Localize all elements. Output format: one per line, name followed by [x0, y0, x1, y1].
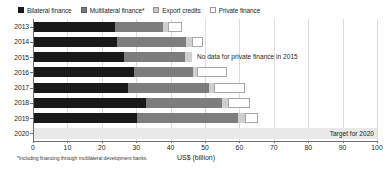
bar-segment-bilateral-2016 — [33, 67, 134, 77]
x-tick-label-100: 100 — [371, 144, 382, 151]
bar-row-2018 — [33, 95, 377, 110]
bar-row-2013 — [33, 19, 377, 34]
legend-item-multilateral-finance: Multilateral finance* — [81, 7, 145, 14]
legend-label: Private finance — [219, 7, 261, 14]
bar-segment-private-2017 — [214, 83, 245, 93]
square-filled-black-icon — [18, 7, 24, 13]
x-tick-label-70: 70 — [270, 144, 278, 151]
stacked-bar-2019 — [33, 113, 258, 123]
legend-label: Multilateral finance* — [90, 7, 145, 14]
x-tick-mark — [33, 141, 34, 143]
y-tick-label-2020: 2020 — [14, 126, 29, 141]
stacked-bar-2013 — [33, 22, 182, 32]
bar-segment-private-2018 — [228, 98, 250, 108]
bar-segment-export-credits-2019 — [238, 113, 245, 123]
x-tick-label-10: 10 — [64, 144, 72, 151]
stacked-bar-2017 — [33, 83, 245, 93]
y-tick-label-2018: 2018 — [14, 95, 29, 110]
bar-segment-bilateral-2019 — [33, 113, 137, 123]
stacked-bar-2015 — [33, 52, 192, 62]
bar-segment-bilateral-2017 — [33, 83, 128, 93]
x-tick-mark — [67, 141, 68, 143]
bar-segment-bilateral-2014 — [33, 37, 117, 47]
bar-segment-multilateral-2014 — [117, 37, 186, 47]
bar-segment-private-2014 — [192, 37, 203, 47]
x-tick-label-90: 90 — [339, 144, 347, 151]
legend-label: Export credits — [162, 7, 200, 14]
x-tick-label-80: 80 — [304, 144, 312, 151]
bar-segment-bilateral-2018 — [33, 98, 146, 108]
x-tick-label-40: 40 — [167, 144, 175, 151]
legend-label: Bilateral finance — [27, 7, 72, 14]
y-tick-label-2019: 2019 — [14, 111, 29, 126]
gridline — [377, 19, 378, 141]
bar-segment-private-2016 — [197, 67, 227, 77]
bar-segment-private-2013 — [168, 22, 181, 32]
square-outline-white-icon — [210, 7, 216, 13]
x-tick-label-30: 30 — [132, 144, 140, 151]
bar-segment-private-2019 — [245, 113, 258, 123]
bar-row-2019 — [33, 111, 377, 126]
x-tick-mark — [274, 141, 275, 143]
target-label: Target for 2020 — [330, 130, 377, 137]
bar-row-2017 — [33, 80, 377, 95]
bar-rows: No data for private finance in 2015Targe… — [33, 19, 377, 141]
legend-item-private-finance: Private finance — [210, 7, 261, 14]
chart-footnote: *Including financing through multilatera… — [17, 155, 147, 161]
legend-item-bilateral-finance: Bilateral finance — [18, 7, 72, 14]
stacked-bar-2018 — [33, 98, 250, 108]
x-tick-mark — [205, 141, 206, 143]
annotation-no-data-2015: No data for private finance in 2015 — [197, 53, 298, 60]
y-tick-label-2016: 2016 — [14, 65, 29, 80]
bar-segment-multilateral-2019 — [137, 113, 238, 123]
bar-segment-export-credits-2015 — [185, 52, 192, 62]
bar-segment-multilateral-2013 — [115, 22, 163, 32]
bar-segment-multilateral-2016 — [134, 67, 193, 77]
plot-area: No data for private finance in 2015Targe… — [33, 19, 377, 141]
bar-segment-bilateral-2015 — [33, 52, 124, 62]
x-tick-mark — [239, 141, 240, 143]
bar-row-2014 — [33, 34, 377, 49]
y-tick-label-2013: 2013 — [14, 19, 29, 34]
x-tick-label-20: 20 — [98, 144, 106, 151]
x-tick-label-60: 60 — [236, 144, 244, 151]
y-tick-label-2015: 2015 — [14, 50, 29, 65]
bar-row-2016 — [33, 65, 377, 80]
x-tick-mark — [136, 141, 137, 143]
x-tick-label-50: 50 — [201, 144, 209, 151]
x-axis: 0102030405060708090100 — [33, 141, 377, 153]
y-tick-label-2017: 2017 — [14, 80, 29, 95]
bar-segment-bilateral-2013 — [33, 22, 115, 32]
target-band-2020: Target for 2020 — [33, 128, 377, 139]
bar-row-2020: Target for 2020 — [33, 126, 377, 141]
square-light-gray-icon — [153, 7, 159, 13]
legend-item-export-credits: Export credits — [153, 7, 200, 14]
stacked-bar-2014 — [33, 37, 203, 47]
x-tick-mark — [343, 141, 344, 143]
x-tick-mark — [308, 141, 309, 143]
square-filled-gray-icon — [81, 7, 87, 13]
x-tick-mark — [171, 141, 172, 143]
bar-segment-multilateral-2017 — [128, 83, 209, 93]
y-tick-label-2014: 2014 — [14, 34, 29, 49]
bar-segment-multilateral-2015 — [124, 52, 185, 62]
stacked-bar-2016 — [33, 67, 227, 77]
chart-legend: Bilateral finance Multilateral finance* … — [18, 4, 260, 16]
bar-segment-multilateral-2018 — [146, 98, 222, 108]
y-axis: 20132014201520162017201820192020 — [0, 19, 33, 141]
x-tick-label-0: 0 — [31, 144, 35, 151]
x-tick-mark — [377, 141, 378, 143]
x-tick-mark — [102, 141, 103, 143]
